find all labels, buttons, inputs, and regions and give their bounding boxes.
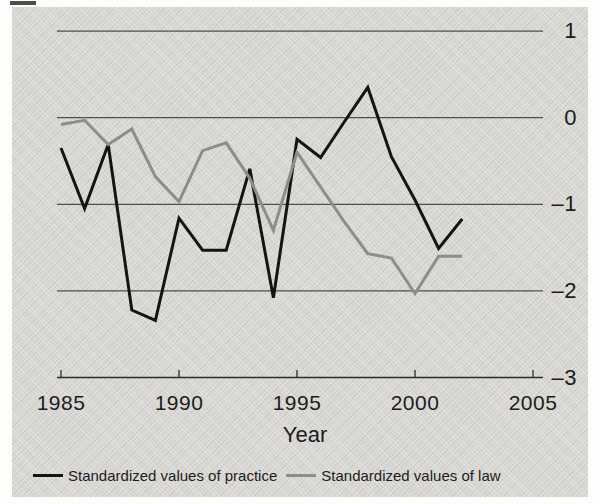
x-tick-label-1995: 1995 — [273, 391, 322, 415]
legend-label-law: Standardized values of law — [321, 467, 500, 484]
x-tick-label-2005: 2005 — [509, 391, 558, 415]
y-tick-label--3: –3 — [552, 367, 577, 389]
x-tick-label-1990: 1990 — [155, 391, 204, 415]
series-line-law — [61, 120, 462, 293]
legend-label-practice: Standardized values of practice — [68, 467, 277, 484]
legend-item-law: Standardized values of law — [286, 467, 500, 484]
x-tick-label-2000: 2000 — [391, 391, 440, 415]
legend-swatch-law — [286, 474, 316, 478]
y-tick-label-0: 0 — [564, 107, 577, 129]
legend-swatch-practice — [33, 474, 63, 478]
figure-page: { "figure": { "xlabel": "Year", "legend"… — [0, 0, 600, 504]
legend-item-practice: Standardized values of practice — [33, 467, 277, 484]
x-tick-label-1985: 1985 — [37, 391, 86, 415]
y-tick-label-1: 1 — [564, 20, 577, 42]
legend: Standardized values of practiceStandardi… — [33, 467, 501, 484]
y-tick-label--1: –1 — [552, 193, 577, 215]
y-tick-label--2: –2 — [552, 280, 577, 302]
x-axis-title: Year — [283, 422, 327, 448]
